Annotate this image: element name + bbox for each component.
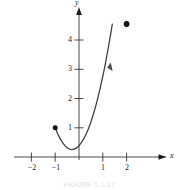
y-tick-label-4: 4 <box>62 36 72 44</box>
parabola-plot <box>0 0 179 190</box>
y-tick-label-1: 1 <box>62 124 72 132</box>
figure-container: y x −2 −1 1 2 1 2 3 4 FIGURE 1.1.17 <box>0 0 179 190</box>
direction-arrow-icon <box>107 63 112 72</box>
right-endpoint-dot <box>124 21 130 27</box>
x-axis <box>14 154 166 160</box>
figure-caption: FIGURE 1.1.17 <box>0 181 179 189</box>
y-tick-label-3: 3 <box>62 65 72 73</box>
x-tick-label-2: 2 <box>121 164 133 172</box>
x-tick-label-1: 1 <box>97 164 109 172</box>
left-endpoint-dot <box>53 125 58 130</box>
y-axis-label: y <box>75 0 79 7</box>
x-axis-label: x <box>170 152 174 160</box>
x-tick-label-neg2: −2 <box>24 164 40 172</box>
y-axis <box>76 7 82 160</box>
x-tick-label-neg1: −1 <box>48 164 64 172</box>
y-tick-label-2: 2 <box>62 95 72 103</box>
